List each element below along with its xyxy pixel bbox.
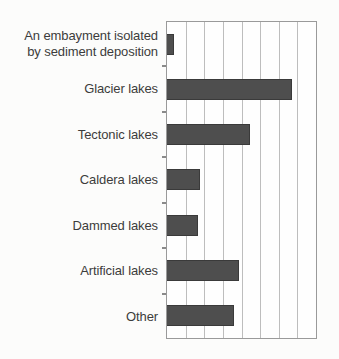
bar-tectonic-lakes — [167, 124, 250, 145]
axis-tick — [162, 247, 166, 249]
bar-row — [167, 293, 316, 338]
plot-area — [166, 21, 317, 339]
category-label-tectonic-lakes: Tectonic lakes — [6, 112, 158, 157]
axis-tick — [162, 202, 166, 204]
bar-other — [167, 305, 234, 326]
category-label-dammed-lakes: Dammed lakes — [6, 203, 158, 248]
category-label-artificial-lakes: Artificial lakes — [6, 248, 158, 293]
axis-tick — [162, 111, 166, 113]
axis-tick — [162, 293, 166, 295]
category-label-other: Other — [6, 294, 158, 339]
bar-row — [167, 112, 316, 157]
axis-tick — [162, 156, 166, 158]
bar-dammed-lakes — [167, 215, 198, 236]
bar-row — [167, 248, 316, 293]
bar-artificial-lakes — [167, 260, 239, 281]
category-label-glacier-lakes: Glacier lakes — [6, 66, 158, 111]
bar-row — [167, 203, 316, 248]
bar-row — [167, 157, 316, 202]
axis-tick — [162, 65, 166, 67]
bar-row — [167, 67, 316, 112]
bar-glacier-lakes — [167, 79, 292, 100]
category-label-caldera-lakes: Caldera lakes — [6, 157, 158, 202]
bar-caldera-lakes — [167, 169, 200, 190]
bar-an-embayment-isolated — [167, 34, 174, 55]
bar-row — [167, 22, 316, 67]
lake-types-bar-chart: An embayment isolated by sediment deposi… — [0, 0, 339, 359]
category-label-an-embayment-isolated: An embayment isolated by sediment deposi… — [6, 21, 158, 66]
